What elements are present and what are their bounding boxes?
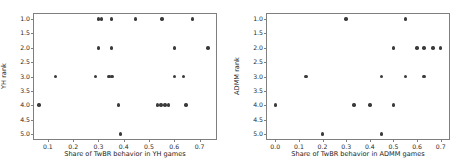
y-tick: [264, 134, 267, 135]
chart-panel-yh: 1.01.52.02.53.03.54.04.55.00.10.20.30.40…: [0, 0, 233, 168]
y-tick-label: 3.5: [253, 88, 263, 94]
data-point: [368, 103, 371, 106]
data-point: [304, 75, 307, 78]
data-point: [191, 17, 194, 20]
data-point: [94, 75, 97, 78]
data-point: [392, 46, 395, 49]
y-tick: [31, 120, 34, 121]
scatter-figure: 1.01.52.02.53.03.54.04.55.00.10.20.30.40…: [0, 0, 466, 168]
plot-area-yh: 1.01.52.02.53.03.54.04.55.00.10.20.30.40…: [33, 13, 217, 140]
x-tick: [174, 139, 175, 142]
x-axis-title-yh: Share of TwBR behavior in YH games: [33, 151, 217, 158]
data-point: [431, 46, 434, 49]
data-point: [110, 17, 113, 20]
y-tick-label: 1.5: [20, 30, 30, 36]
chart-panel-admm: 1.01.52.02.53.03.54.04.55.00.00.10.20.30…: [233, 0, 466, 168]
data-point: [97, 46, 100, 49]
data-point: [415, 46, 418, 49]
y-tick-label: 2.0: [253, 45, 263, 51]
y-tick-label: 3.0: [253, 73, 263, 79]
data-point: [117, 103, 120, 106]
y-tick: [264, 91, 267, 92]
x-tick: [124, 139, 125, 142]
x-tick: [275, 139, 276, 142]
y-tick-label: 4.5: [20, 116, 30, 122]
x-tick: [48, 139, 49, 142]
data-point: [380, 132, 383, 135]
data-point: [352, 103, 355, 106]
data-point: [422, 46, 425, 49]
data-point: [380, 75, 383, 78]
data-point: [206, 46, 209, 49]
data-point: [167, 103, 170, 106]
y-tick: [264, 77, 267, 78]
data-point: [404, 75, 407, 78]
x-tick: [441, 139, 442, 142]
y-axis-title-yh: YH rank: [1, 63, 8, 89]
y-tick-label: 1.0: [253, 16, 263, 22]
x-tick-label: 0.1: [43, 144, 53, 150]
y-tick-label: 1.0: [20, 16, 30, 22]
y-tick-label: 5.0: [20, 131, 30, 137]
x-tick-label: 0.7: [436, 144, 446, 150]
x-tick: [323, 139, 324, 142]
y-tick: [31, 19, 34, 20]
data-point: [404, 17, 407, 20]
x-tick: [73, 139, 74, 142]
y-tick-label: 4.0: [253, 102, 263, 108]
data-point: [173, 46, 176, 49]
y-tick-label: 2.5: [20, 59, 30, 65]
y-tick: [31, 62, 34, 63]
data-point: [422, 75, 425, 78]
data-point: [37, 103, 40, 106]
data-point: [344, 17, 347, 20]
x-tick: [417, 139, 418, 142]
y-tick: [31, 48, 34, 49]
data-point: [173, 75, 176, 78]
y-tick: [264, 19, 267, 20]
y-tick: [264, 62, 267, 63]
data-point: [321, 132, 324, 135]
data-point: [54, 75, 57, 78]
data-point: [182, 75, 185, 78]
x-axis-title-admm: Share of TwBR behavior in ADMM games: [266, 151, 450, 158]
data-point: [110, 46, 113, 49]
y-tick: [31, 134, 34, 135]
x-tick: [98, 139, 99, 142]
x-tick: [149, 139, 150, 142]
x-tick: [299, 139, 300, 142]
y-tick-label: 4.0: [20, 102, 30, 108]
y-tick-label: 3.5: [20, 88, 30, 94]
y-tick-label: 5.0: [253, 131, 263, 137]
y-tick: [31, 77, 34, 78]
y-axis-title-admm: ADMM rank: [234, 57, 241, 95]
y-tick: [31, 33, 34, 34]
y-tick-label: 2.5: [253, 59, 263, 65]
y-tick: [31, 105, 34, 106]
y-tick: [264, 120, 267, 121]
y-tick-label: 2.0: [20, 45, 30, 51]
y-tick: [264, 105, 267, 106]
y-tick: [31, 91, 34, 92]
plot-area-admm: 1.01.52.02.53.03.54.04.55.00.00.10.20.30…: [266, 13, 450, 140]
x-tick-label: 0.0: [270, 144, 280, 150]
x-tick: [370, 139, 371, 142]
data-point: [134, 17, 137, 20]
data-point: [274, 103, 277, 106]
data-point: [100, 17, 103, 20]
data-point: [392, 103, 395, 106]
y-tick-label: 4.5: [253, 116, 263, 122]
y-tick: [264, 48, 267, 49]
x-tick-label: 0.7: [195, 144, 205, 150]
x-tick: [393, 139, 394, 142]
data-point: [160, 17, 163, 20]
data-point: [110, 75, 113, 78]
data-point: [184, 103, 187, 106]
x-tick: [346, 139, 347, 142]
y-tick: [264, 33, 267, 34]
y-tick-label: 3.0: [20, 73, 30, 79]
y-tick-label: 1.5: [253, 30, 263, 36]
data-point: [439, 46, 442, 49]
x-tick: [200, 139, 201, 142]
data-point: [119, 132, 122, 135]
